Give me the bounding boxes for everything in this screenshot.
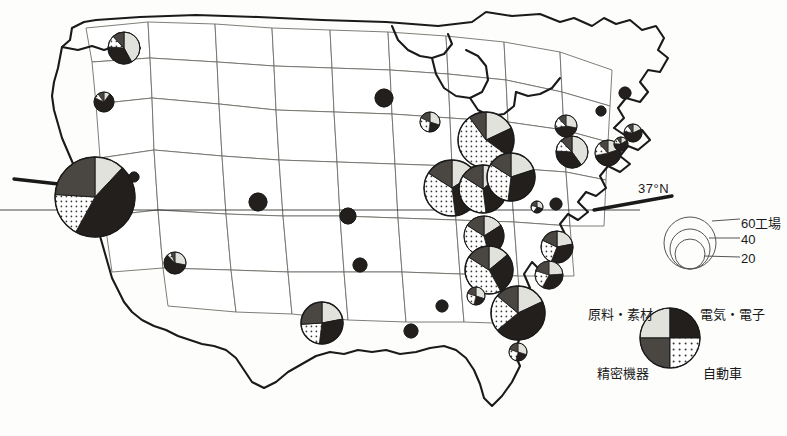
- pie-marker: [301, 302, 343, 344]
- pie-marker: [129, 172, 139, 182]
- pie-marker: [404, 324, 418, 338]
- pie-marker: [556, 136, 588, 168]
- pie-marker: [535, 261, 563, 289]
- pie-marker: [491, 286, 545, 340]
- size-legend-label-60: 60工場: [741, 213, 781, 232]
- legend-label-precision-instruments: 精密機器: [597, 363, 649, 382]
- map-figure: 37°N 60工場 40 20 原料・素材 電気・電子 精密機器 自動車: [0, 0, 787, 436]
- legend-label-automobiles: 自動車: [703, 363, 742, 382]
- size-legend-circles: [664, 217, 740, 269]
- pie-marker: [108, 32, 140, 64]
- pie-marker: [487, 153, 535, 201]
- legend-label-raw-materials: 原料・素材: [588, 304, 653, 323]
- pie-marker: [164, 252, 186, 274]
- pie-marker: [340, 208, 356, 224]
- pie-marker: [436, 300, 448, 312]
- pie-marker: [541, 231, 573, 263]
- size-legend-label-40: 40: [741, 232, 755, 247]
- pie-marker: [420, 112, 440, 132]
- pie-marker: [249, 193, 267, 211]
- pie-marker: [614, 137, 628, 151]
- pie-marker: [375, 89, 393, 107]
- pie-marker: [467, 287, 485, 305]
- pie-marker: [509, 343, 527, 361]
- pie-marker: [55, 157, 135, 237]
- pie-marker: [353, 258, 367, 272]
- pie-marker: [619, 87, 631, 99]
- latitude-label: 37°N: [638, 181, 669, 196]
- size-legend-label-20: 20: [741, 251, 755, 266]
- legend-label-electrical-electronics: 電気・電子: [700, 304, 765, 323]
- pie-marker: [531, 201, 543, 213]
- usa-choropleth-map: [0, 0, 787, 436]
- pie-marker: [596, 106, 606, 116]
- pie-marker: [550, 198, 562, 210]
- pie-marker: [94, 92, 114, 112]
- pie-marker: [555, 115, 577, 137]
- pie-marker: [465, 246, 513, 294]
- pie-slice-電気・電子: [319, 319, 343, 344]
